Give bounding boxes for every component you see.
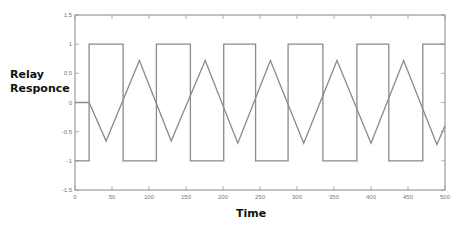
y-tick-label: -1.5 — [62, 187, 73, 193]
x-tick-label: 300 — [292, 194, 303, 200]
x-tick-label: 100 — [144, 194, 155, 200]
data-series — [75, 44, 445, 161]
y-tick-label: 1.5 — [64, 12, 73, 18]
x-tick-label: 500 — [440, 194, 451, 200]
square-wave-series — [75, 44, 445, 161]
y-tick-label: 1 — [69, 41, 73, 47]
x-tick-label: 250 — [255, 194, 266, 200]
y-tick-label: -1 — [67, 158, 73, 164]
x-tick-label: 200 — [218, 194, 229, 200]
y-axis-label-text: Relay Responce — [10, 68, 68, 96]
y-tick-label: 0 — [69, 100, 73, 106]
plot-frame — [75, 15, 445, 190]
x-tick-label: 150 — [181, 194, 192, 200]
x-axis-label: Time — [236, 207, 266, 220]
y-tick-label: -0.5 — [62, 129, 73, 135]
x-tick-label: 50 — [109, 194, 116, 200]
relay-response-chart: 050100150200250300350400450500-1.5-1-0.5… — [0, 0, 461, 231]
x-tick-label: 0 — [73, 194, 77, 200]
y-axis-label: Relay Responce — [10, 68, 68, 96]
x-tick-label: 350 — [329, 194, 340, 200]
x-tick-label: 400 — [366, 194, 377, 200]
triangle-wave-series — [75, 61, 445, 145]
x-tick-label: 450 — [403, 194, 414, 200]
plot-axes — [75, 15, 445, 190]
